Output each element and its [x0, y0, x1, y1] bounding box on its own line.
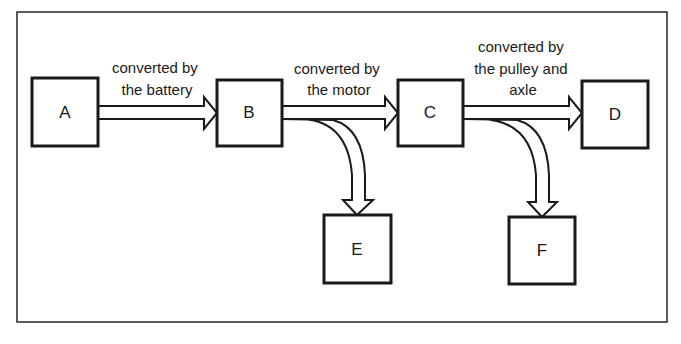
- arrow-c-to-f: [463, 119, 557, 217]
- energy-flow-diagram: converted by the battery converted by th…: [0, 0, 681, 344]
- node-f-label: F: [537, 241, 547, 260]
- arrow-a-to-b: [98, 97, 217, 129]
- node-c: C: [398, 80, 463, 146]
- node-e-label: E: [351, 240, 362, 259]
- node-b: B: [217, 80, 282, 146]
- node-a: A: [32, 78, 98, 146]
- node-b-label: B: [243, 103, 254, 122]
- label-c-to-d: converted by the pulley and axle: [474, 38, 572, 98]
- node-a-label: A: [59, 103, 71, 122]
- label-a-to-b: converted by the battery: [112, 59, 202, 98]
- node-d-label: D: [609, 105, 621, 124]
- node-d: D: [582, 81, 648, 148]
- arrow-b-to-e: [282, 119, 373, 215]
- label-b-to-c: converted by the motor: [294, 60, 384, 98]
- node-f: F: [509, 217, 575, 284]
- node-e: E: [324, 215, 391, 283]
- node-c-label: C: [424, 103, 436, 122]
